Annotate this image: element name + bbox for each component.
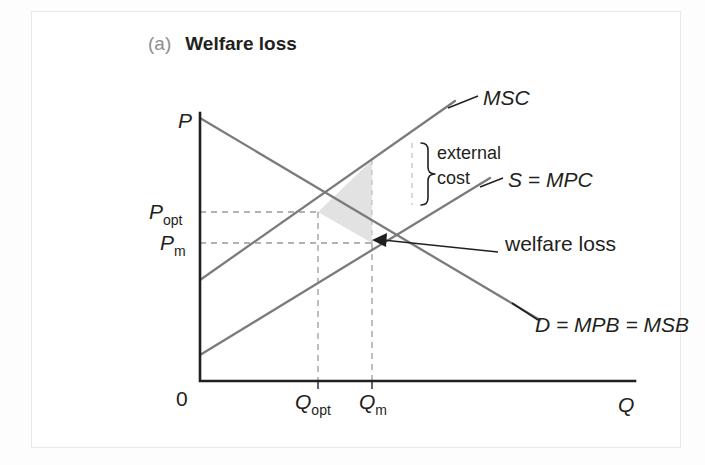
label-external-cost-line1: external <box>437 143 501 163</box>
label-mpc: S = MPC <box>508 168 593 191</box>
label-external-cost-line2: cost <box>437 168 470 188</box>
label-q-opt: Qopt <box>295 390 331 418</box>
external-cost-brace <box>421 143 435 205</box>
label-y-axis: P <box>178 109 192 132</box>
figure-root: (a)Welfare loss MSC S = MPC D = MPB = <box>0 0 705 465</box>
label-welfare-loss: welfare loss <box>504 232 616 255</box>
welfare-loss-diagram: MSC S = MPC D = MPB = MSB external cost … <box>0 0 705 465</box>
label-q-m: Qm <box>359 390 387 418</box>
welfare-loss-shaded-region <box>318 160 372 243</box>
curve-msc <box>200 101 455 280</box>
label-x-axis: Q <box>618 393 634 416</box>
label-p-m: Pm <box>160 231 186 259</box>
label-origin: 0 <box>176 387 188 410</box>
label-p-opt: Popt <box>149 200 183 228</box>
label-demand: D = MPB = MSB <box>535 313 689 336</box>
label-msc: MSC <box>483 86 531 109</box>
welfare-loss-pointer <box>383 240 498 252</box>
